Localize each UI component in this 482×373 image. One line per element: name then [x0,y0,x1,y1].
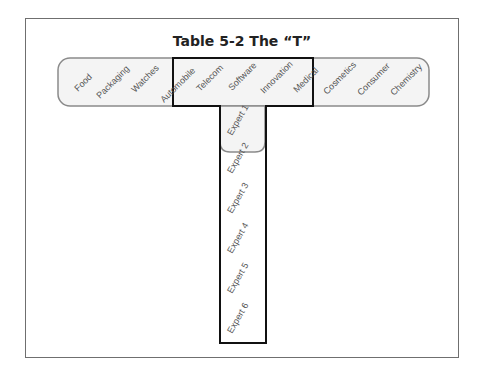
t-diagram: Food Packaging Watches Automobile Teleco… [0,0,482,373]
expert-label: Expert 6 [225,301,250,335]
expert-label: Expert 4 [225,221,250,255]
expert-label: Expert 5 [225,261,250,295]
expert-label: Expert 3 [225,181,250,215]
